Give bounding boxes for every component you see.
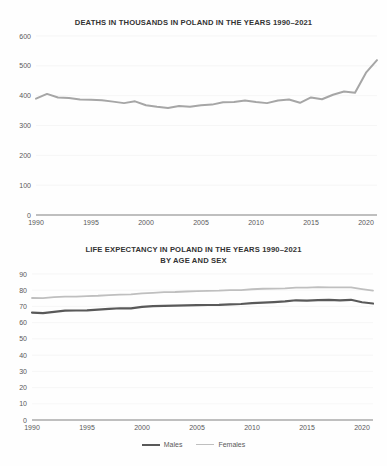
y-axis-tick-label: 0 (23, 417, 27, 424)
legend-item-males[interactable]: Males (142, 441, 183, 448)
x-axis-tick-label: 1995 (83, 219, 99, 226)
x-axis-tick-label: 2005 (189, 424, 205, 431)
x-axis-tick-label: 2020 (354, 424, 370, 431)
y-axis-tick-label: 60 (19, 319, 27, 326)
x-axis-tick-label: 2000 (134, 424, 150, 431)
y-axis-tick-label: 30 (19, 368, 27, 375)
y-axis-tick-label: 400 (19, 92, 31, 99)
charts-page: DEATHS IN THOUSANDS IN POLAND IN THE YEA… (0, 0, 387, 466)
y-axis-tick-label: 50 (19, 335, 27, 342)
legend-life: Males Females (0, 441, 387, 448)
legend-label-males: Males (164, 441, 183, 448)
y-axis-tick-label: 600 (19, 33, 31, 40)
chart-title-life-line1: LIFE EXPECTANCY IN POLAND IN THE YEARS 1… (85, 245, 301, 254)
legend-label-females: Females (218, 441, 245, 448)
x-axis-tick-label: 2000 (138, 219, 154, 226)
y-axis-tick-label: 100 (19, 182, 31, 189)
legend-swatch-males (142, 444, 160, 446)
series-line-deaths (36, 60, 377, 108)
y-axis-tick-label: 40 (19, 352, 27, 359)
chart-title-deaths-line1: DEATHS IN THOUSANDS IN POLAND IN THE YEA… (75, 18, 313, 27)
plot-area-life: 0102030405060708090199019952000200520102… (0, 266, 387, 438)
y-axis-tick-label: 20 (19, 384, 27, 391)
y-axis-tick-label: 80 (19, 287, 27, 294)
series-line-females (32, 287, 373, 298)
y-axis-tick-label: 10 (19, 400, 27, 407)
chart-title-deaths: DEATHS IN THOUSANDS IN POLAND IN THE YEA… (0, 0, 387, 28)
chart-title-life: LIFE EXPECTANCY IN POLAND IN THE YEARS 1… (0, 234, 387, 266)
legend-swatch-females (196, 444, 214, 445)
x-axis-tick-label: 2005 (193, 219, 209, 226)
figure-deaths: DEATHS IN THOUSANDS IN POLAND IN THE YEA… (0, 0, 387, 234)
y-axis-tick-label: 500 (19, 62, 31, 69)
y-axis-tick-label: 70 (19, 303, 27, 310)
deaths-line-chart: 0100200300400500600199019952000200520102… (0, 28, 387, 233)
y-axis-tick-label: 300 (19, 122, 31, 129)
x-axis-tick-label: 1995 (79, 424, 95, 431)
chart-title-life-line2: BY AGE AND SEX (20, 255, 367, 266)
legend-item-females[interactable]: Females (196, 441, 245, 448)
x-axis-tick-label: 1990 (28, 219, 44, 226)
x-axis-tick-label: 2015 (303, 219, 319, 226)
x-axis-tick-label: 2010 (248, 219, 264, 226)
y-axis-tick-label: 200 (19, 152, 31, 159)
y-axis-tick-label: 90 (19, 271, 27, 278)
y-axis-tick-label: 0 (27, 212, 31, 219)
life-expectancy-line-chart: 0102030405060708090199019952000200520102… (0, 266, 387, 438)
x-axis-tick-label: 1990 (24, 424, 40, 431)
x-axis-tick-label: 2020 (358, 219, 374, 226)
plot-area-deaths: 0100200300400500600199019952000200520102… (0, 28, 387, 233)
figure-life-expectancy: LIFE EXPECTANCY IN POLAND IN THE YEARS 1… (0, 234, 387, 466)
x-axis-tick-label: 2015 (299, 424, 315, 431)
x-axis-tick-label: 2010 (244, 424, 260, 431)
